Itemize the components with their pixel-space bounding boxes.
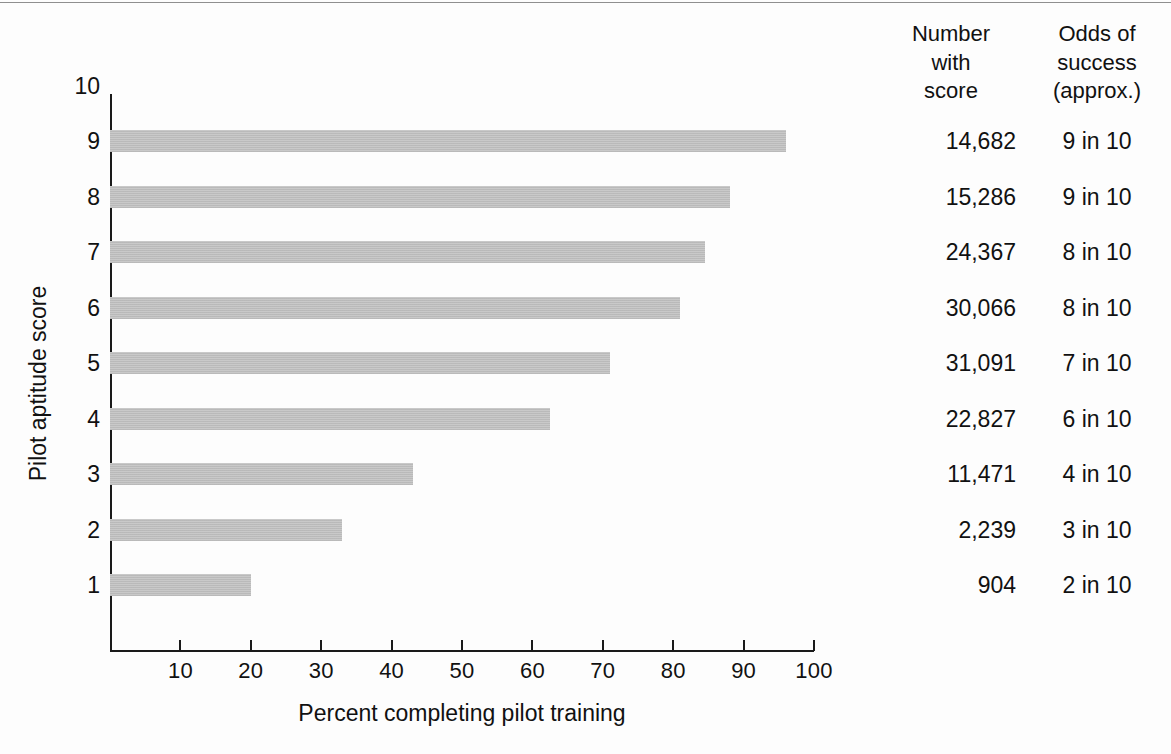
cell-odds-of-success-2: 3 in 10 <box>1032 518 1162 541</box>
y-tick-label-7: 7 <box>87 241 100 264</box>
bar-score-5 <box>110 352 610 374</box>
x-tick-40 <box>391 640 393 651</box>
x-tick-label-20: 20 <box>238 658 263 684</box>
cell-odds-of-success-1: 2 in 10 <box>1032 574 1162 597</box>
cell-number-with-score-2: 2,239 <box>886 518 1016 541</box>
x-tick-label-50: 50 <box>450 658 475 684</box>
x-tick-label-60: 60 <box>520 658 545 684</box>
header-number-line-3: score <box>886 77 1016 106</box>
bar-score-9 <box>110 130 786 152</box>
x-axis-title: Percent completing pilot training <box>110 700 814 727</box>
bar-score-4 <box>110 408 550 430</box>
x-tick-100 <box>813 640 815 651</box>
header-number-line-2: with <box>886 49 1016 78</box>
y-tick-label-8: 8 <box>87 185 100 208</box>
y-tick-label-9: 9 <box>87 130 100 153</box>
cell-number-with-score-7: 24,367 <box>886 241 1016 264</box>
x-tick-80 <box>672 640 674 651</box>
header-odds-line-3: (approx.) <box>1032 77 1162 106</box>
cell-number-with-score-6: 30,066 <box>886 296 1016 319</box>
y-tick-label-2: 2 <box>87 518 100 541</box>
x-tick-label-90: 90 <box>731 658 756 684</box>
x-tick-20 <box>250 640 252 651</box>
header-number-line-1: Number <box>886 20 1016 49</box>
cell-odds-of-success-5: 7 in 10 <box>1032 352 1162 375</box>
x-tick-label-10: 10 <box>168 658 193 684</box>
x-tick-label-30: 30 <box>309 658 334 684</box>
y-tick-label-5: 5 <box>87 352 100 375</box>
y-tick-label-10: 10 <box>74 74 100 97</box>
x-tick-label-100: 100 <box>795 658 832 684</box>
x-tick-label-40: 40 <box>379 658 404 684</box>
cell-odds-of-success-4: 6 in 10 <box>1032 407 1162 430</box>
x-tick-50 <box>461 640 463 651</box>
cell-number-with-score-4: 22,827 <box>886 407 1016 430</box>
column-header-number-with-score: Number with score <box>886 20 1016 106</box>
y-tick-label-3: 3 <box>87 463 100 486</box>
cell-odds-of-success-9: 9 in 10 <box>1032 130 1162 153</box>
bar-score-2 <box>110 519 342 541</box>
x-tick-30 <box>320 640 322 651</box>
cell-odds-of-success-3: 4 in 10 <box>1032 463 1162 486</box>
y-tick-label-6: 6 <box>87 296 100 319</box>
side-data-table: Number with score Odds of success (appro… <box>880 0 1171 754</box>
bar-score-7 <box>110 241 705 263</box>
pilot-aptitude-chart-figure: 102030405060708090100 10987654321 Pilot … <box>0 0 1171 754</box>
x-tick-90 <box>743 640 745 651</box>
header-odds-line-1: Odds of <box>1032 20 1162 49</box>
bar-chart-plot-area: 102030405060708090100 10987654321 Pilot … <box>0 0 880 754</box>
x-tick-10 <box>179 640 181 651</box>
cell-odds-of-success-8: 9 in 10 <box>1032 185 1162 208</box>
x-tick-60 <box>531 640 533 651</box>
cell-number-with-score-1: 904 <box>886 574 1016 597</box>
x-tick-label-70: 70 <box>590 658 615 684</box>
cell-number-with-score-9: 14,682 <box>886 130 1016 153</box>
cell-odds-of-success-7: 8 in 10 <box>1032 241 1162 264</box>
bar-score-8 <box>110 186 730 208</box>
bar-score-1 <box>110 574 251 596</box>
y-axis-title: Pilot aptitude score <box>25 224 52 544</box>
cell-number-with-score-5: 31,091 <box>886 352 1016 375</box>
header-odds-line-2: success <box>1032 49 1162 78</box>
x-tick-label-80: 80 <box>661 658 686 684</box>
column-header-odds-of-success: Odds of success (approx.) <box>1032 20 1162 106</box>
cell-number-with-score-8: 15,286 <box>886 185 1016 208</box>
bar-score-6 <box>110 297 680 319</box>
y-tick-label-4: 4 <box>87 407 100 430</box>
cell-odds-of-success-6: 8 in 10 <box>1032 296 1162 319</box>
bar-score-3 <box>110 463 413 485</box>
x-tick-70 <box>602 640 604 651</box>
cell-number-with-score-3: 11,471 <box>886 463 1016 486</box>
y-tick-label-1: 1 <box>87 574 100 597</box>
